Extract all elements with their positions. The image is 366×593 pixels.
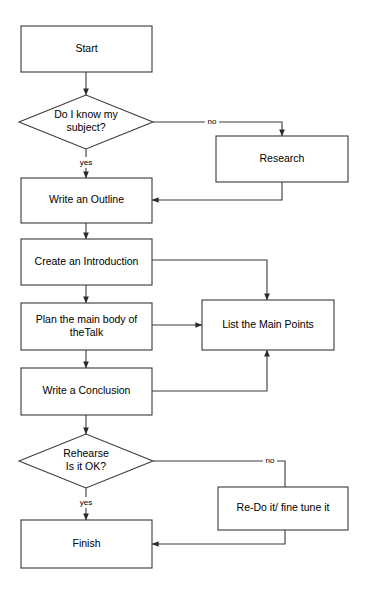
node-label: Finish: [72, 537, 100, 549]
node-label: Plan the main body of: [36, 313, 138, 325]
flow-edge: no: [153, 455, 285, 487]
node-label: List the Main Points: [222, 318, 314, 330]
flow-edge: [152, 350, 267, 391]
node-label: subject?: [66, 121, 105, 133]
flow-node-know_subject[interactable]: Do I know mysubject?: [19, 95, 153, 149]
flow-node-rehearse[interactable]: RehearseIs it OK?: [19, 434, 153, 488]
edge-path: [152, 350, 267, 391]
node-label: Write an Outline: [49, 193, 124, 205]
edge-label: yes: [80, 158, 92, 167]
flow-node-create_intro[interactable]: Create an Introduction: [21, 239, 152, 285]
node-label: Start: [75, 42, 97, 54]
edge-label: no: [208, 117, 217, 126]
flow-edge: [152, 182, 282, 200]
edge-path: [152, 182, 282, 200]
edge-label: no: [266, 456, 275, 465]
nodes-layer: StartDo I know mysubject?ResearchWrite a…: [19, 26, 348, 568]
edge-path: [152, 260, 267, 300]
flow-node-write_outline[interactable]: Write an Outline: [21, 178, 152, 223]
flow-node-plan_body[interactable]: Plan the main body oftheTalk: [21, 303, 152, 350]
flow-node-write_conclusion[interactable]: Write a Conclusion: [21, 368, 152, 415]
flow-node-start[interactable]: Start: [21, 26, 152, 72]
flow-edge: [152, 260, 267, 300]
node-label: Create an Introduction: [35, 255, 139, 267]
flow-edge: no: [153, 116, 282, 136]
node-label: Write a Conclusion: [43, 384, 131, 396]
flow-node-finish[interactable]: Finish: [21, 520, 152, 568]
flow-edge: yes: [77, 149, 96, 178]
node-label: theTalk: [70, 326, 104, 338]
flow-edge: [152, 530, 285, 544]
flow-node-research[interactable]: Research: [216, 136, 348, 182]
node-label: Rehearse: [63, 447, 109, 459]
flowchart-canvas: noyesnoyes StartDo I know mysubject?Rese…: [0, 0, 366, 593]
flowchart-svg: noyesnoyes StartDo I know mysubject?Rese…: [0, 0, 366, 593]
node-label: Re-Do it/ fine tune it: [237, 501, 330, 513]
flow-node-redo[interactable]: Re-Do it/ fine tune it: [218, 487, 348, 530]
flow-node-list_points[interactable]: List the Main Points: [202, 300, 334, 350]
node-label: Do I know my: [54, 108, 118, 120]
edge-label: yes: [80, 498, 92, 507]
flow-edge: yes: [77, 488, 96, 520]
edge-path: [152, 530, 285, 544]
node-label: Is it OK?: [66, 460, 106, 472]
node-label: Research: [260, 152, 305, 164]
